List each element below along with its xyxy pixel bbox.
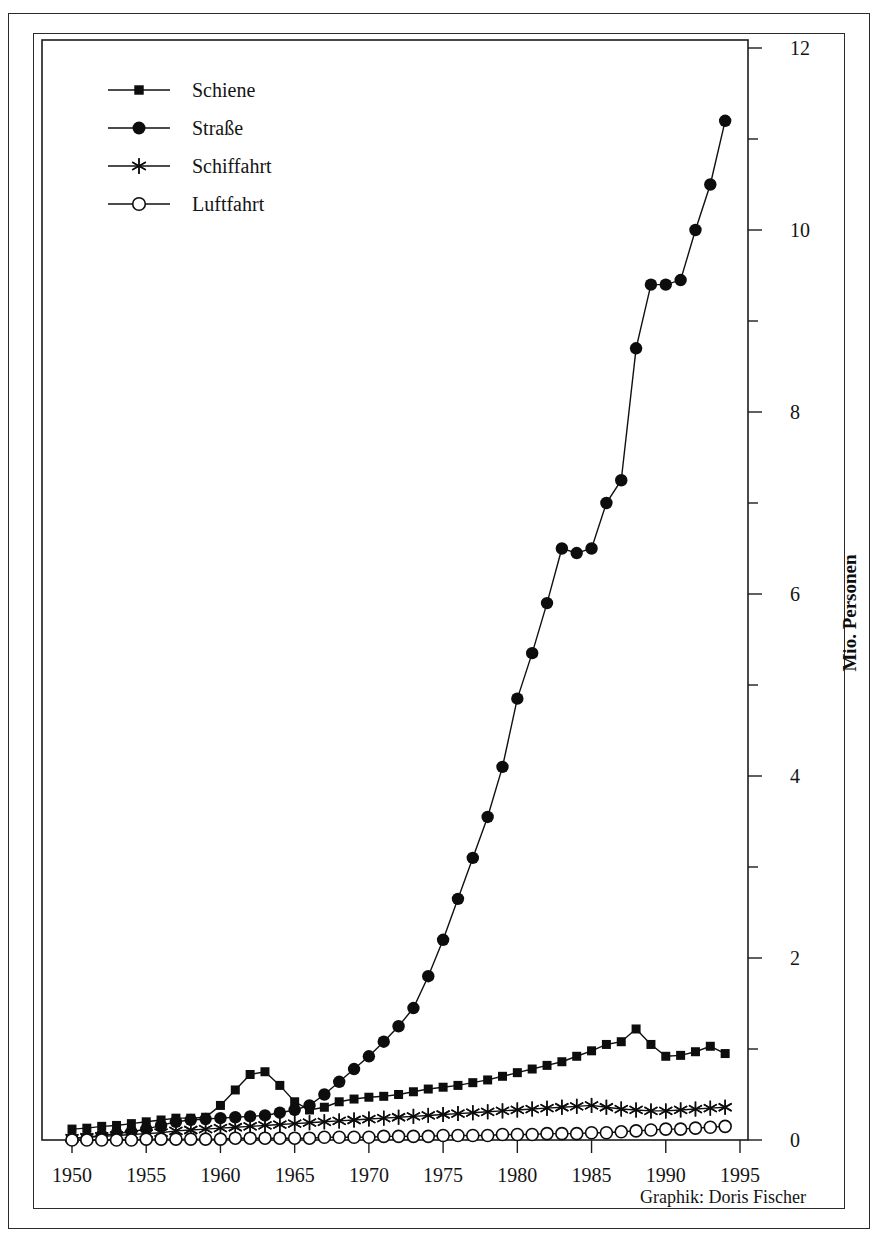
marker-circle-open [244,1132,256,1144]
marker-circle-filled [303,1099,315,1111]
y-tick-label: 12 [790,37,810,59]
x-tick-label: 1965 [275,1164,315,1186]
series-group [66,115,732,1146]
marker-square [453,1081,462,1090]
legend-label: Straße [192,117,243,139]
marker-circle-filled [600,497,612,509]
x-tick-label: 1955 [126,1164,166,1186]
marker-circle-open [259,1132,271,1144]
marker-circle-open [541,1128,553,1140]
marker-square [320,1103,329,1112]
marker-square [557,1057,566,1066]
marker-circle-open [155,1133,167,1145]
marker-circle-open [675,1123,687,1135]
x-tick-label: 1950 [52,1164,92,1186]
marker-square [246,1070,255,1079]
marker-square [394,1090,403,1099]
marker-circle-filled [378,1036,390,1048]
marker-circle-open [274,1132,286,1144]
marker-square [424,1085,433,1094]
marker-square [379,1092,388,1101]
marker-circle-open [318,1131,330,1143]
marker-circle-filled [719,115,731,127]
marker-square [661,1052,670,1061]
marker-circle-filled [422,970,434,982]
marker-circle-open [407,1130,419,1142]
marker-square [409,1087,418,1096]
marker-circle-open [348,1131,360,1143]
marker-circle-open [422,1130,434,1142]
marker-circle-open [704,1121,716,1133]
marker-circle-filled [689,224,701,236]
marker-circle-filled [318,1088,330,1100]
marker-square [543,1061,552,1070]
marker-circle-filled [496,761,508,773]
marker-circle-open [96,1134,108,1146]
marker-circle-open [140,1133,152,1145]
marker-circle-filled [585,542,597,554]
marker-square [676,1051,685,1060]
y-tick-label: 10 [790,219,810,241]
marker-circle-open [452,1129,464,1141]
marker-square [498,1072,507,1081]
marker-circle-filled [407,1002,419,1014]
marker-circle-open [111,1134,123,1146]
marker-square [706,1042,715,1051]
marker-circle-open [289,1132,301,1144]
line-chart: 1950195519601965197019751980198519901995… [0,0,881,1245]
marker-circle-open [660,1123,672,1135]
marker-square [721,1049,730,1058]
legend-item-schiffahrt: Schiffahrt [108,155,272,177]
marker-square [260,1067,269,1076]
legend-label: Schiene [192,79,255,101]
marker-square [364,1093,373,1102]
axes-group: 1950195519601965197019751980198519901995… [42,37,810,1186]
y-axis-title: Mio. Personen [839,554,860,672]
marker-circle-open [185,1133,197,1145]
marker-circle-open [378,1130,390,1142]
marker-square [350,1095,359,1104]
labels-group: Mio. PersonenGraphik: Doris Fischer [640,554,860,1207]
marker-circle-open [363,1131,375,1143]
marker-circle-filled [526,647,538,659]
marker-circle-filled [392,1020,404,1032]
series-strae [66,115,732,1145]
marker-square [335,1097,344,1106]
marker-circle-filled [556,542,568,554]
x-tick-label: 1975 [423,1164,463,1186]
marker-circle-filled [674,274,686,286]
marker-circle-filled [467,852,479,864]
marker-square [528,1065,537,1074]
marker-circle-open [719,1120,731,1132]
marker-circle-filled [132,121,145,134]
x-tick-label: 1970 [349,1164,389,1186]
marker-circle-open [556,1128,568,1140]
marker-square [602,1040,611,1049]
x-tick-label: 1990 [646,1164,686,1186]
marker-circle-open [615,1126,627,1138]
figure-page: 1950195519601965197019751980198519901995… [0,0,881,1245]
marker-square [275,1081,284,1090]
marker-circle-open [571,1128,583,1140]
plot-frame [42,40,748,1140]
marker-circle-open [689,1122,701,1134]
legend-item-strae: Straße [108,117,243,139]
y-tick-label: 6 [790,583,800,605]
marker-square [617,1037,626,1046]
x-tick-label: 1960 [200,1164,240,1186]
marker-circle-filled [615,474,627,486]
marker-circle-open [482,1129,494,1141]
marker-square [646,1040,655,1049]
marker-circle-open [133,198,146,211]
y-tick-label: 0 [790,1129,800,1151]
marker-square [587,1046,596,1055]
marker-circle-open [630,1125,642,1137]
marker-circle-open [200,1133,212,1145]
series-line [72,121,725,1138]
y-tick-label: 4 [790,765,800,787]
legend-group: SchieneStraßeSchiffahrtLuftfahrt [108,79,272,215]
marker-circle-open [81,1134,93,1146]
marker-circle-filled [571,547,583,559]
marker-circle-filled [541,597,553,609]
legend-item-schiene: Schiene [108,79,255,101]
